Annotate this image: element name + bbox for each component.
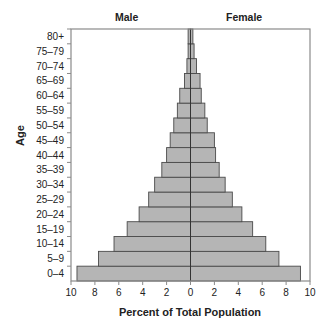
x-tick-label: 8 [283,287,289,298]
x-tick-label: 6 [116,287,122,298]
male-bar-50–54 [174,118,191,133]
male-bar-35–39 [162,162,191,177]
y-axis-label: Age [14,125,26,146]
male-bar-65–69 [185,73,191,88]
female-bar-50–54 [191,118,208,133]
male-bar-70–74 [187,59,191,74]
male-bar-30–34 [155,177,191,192]
male-bar-0–4 [77,266,191,281]
y-tick-label: 40–44 [36,150,64,161]
y-tick-label: 75–79 [36,46,64,57]
female-bar-10–14 [191,237,266,252]
y-tick-label: 30–34 [36,179,64,190]
y-tick-label: 65–69 [36,75,64,86]
male-bar-60–64 [180,88,191,103]
bars-group [77,29,300,281]
x-tick-label: 4 [140,287,146,298]
female-bar-35–39 [191,162,220,177]
female-bar-65–69 [191,73,201,88]
x-tick-label: 10 [65,287,77,298]
x-tick-label: 8 [92,287,98,298]
male-bar-15–19 [127,222,190,237]
x-tick-label: 0 [188,287,194,298]
female-bar-45–49 [191,133,215,148]
female-bar-15–19 [191,222,253,237]
female-bar-25–29 [191,192,233,207]
male-bar-20–24 [139,207,190,222]
x-tick-label: 2 [164,287,170,298]
y-tick-label: 55–59 [36,105,64,116]
male-bar-45–49 [170,133,190,148]
male-bar-10–14 [114,237,190,252]
female-bar-55–59 [191,103,205,118]
female-bar-30–34 [191,177,226,192]
male-bar-25–29 [149,192,191,207]
female-bar-40–44 [191,148,216,163]
y-tick-label: 5–9 [47,253,64,264]
y-tick-label: 50–54 [36,120,64,131]
y-tick-label: 10–14 [36,238,64,249]
y-tick-label: 80+ [47,31,64,42]
female-bar-70–74 [191,59,197,74]
population-pyramid-chart: 0–45–910–1415–1920–2425–2930–3435–3940–4… [0,0,332,329]
x-tick-label: 4 [236,287,242,298]
y-tick-label: 45–49 [36,135,64,146]
y-tick-label: 15–19 [36,224,64,235]
y-tick-label: 20–24 [36,209,64,220]
y-tick-label: 0–4 [47,268,64,279]
y-tick-label: 70–74 [36,61,64,72]
male-bar-40–44 [167,148,191,163]
x-tick-label: 6 [259,287,265,298]
female-bar-0–4 [191,266,301,281]
female-bar-75–79 [191,44,195,59]
y-tick-label: 35–39 [36,164,64,175]
x-tick-label: 2 [212,287,218,298]
x-tick-label: 10 [304,287,316,298]
female-bar-60–64 [191,88,202,103]
male-bar-5–9 [98,251,190,266]
female-bar-20–24 [191,207,242,222]
y-tick-label: 60–64 [36,90,64,101]
female-bar-5–9 [191,251,279,266]
y-tick-label: 25–29 [36,194,64,205]
x-axis-label: Percent of Total Population [0,306,332,318]
male-bar-55–59 [177,103,190,118]
